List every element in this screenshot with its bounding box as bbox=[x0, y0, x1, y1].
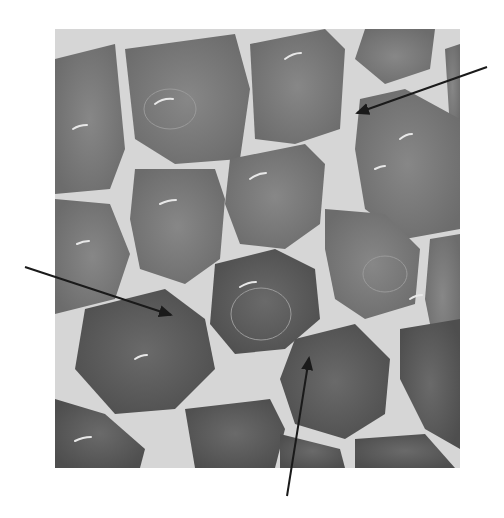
arrow-annotations bbox=[0, 0, 504, 518]
arrow-icon bbox=[25, 267, 171, 315]
arrow-icon bbox=[357, 67, 487, 113]
arrow-icon bbox=[287, 358, 309, 496]
